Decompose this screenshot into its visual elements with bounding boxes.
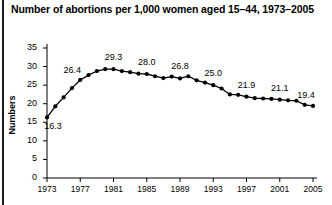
data-point-marker xyxy=(95,69,99,73)
y-axis-tick-label: 20 xyxy=(19,99,37,108)
data-point-marker xyxy=(269,97,273,101)
data-point-marker xyxy=(128,70,132,74)
data-point-marker xyxy=(244,95,248,99)
y-axis-title: Numbers xyxy=(7,85,17,145)
data-series-markers xyxy=(45,67,315,119)
data-point-marker xyxy=(253,96,257,100)
data-point-marker xyxy=(103,67,107,71)
plot-area: Numbers 05101520253035 19731977198119851… xyxy=(0,22,332,205)
data-point-marker xyxy=(195,78,199,82)
x-axis-tick-label: 1985 xyxy=(130,185,164,194)
x-axis-tick-label: 1977 xyxy=(63,185,97,194)
data-point-label: 29.3 xyxy=(99,53,129,62)
data-point-marker xyxy=(219,86,223,90)
x-axis-tick-label: 1989 xyxy=(163,185,197,194)
x-axis-tick-label: 1997 xyxy=(230,185,264,194)
data-point-marker xyxy=(311,104,315,108)
data-point-marker xyxy=(111,67,115,71)
x-axis-tick-label: 2001 xyxy=(263,185,297,194)
data-point-marker xyxy=(278,98,282,102)
data-point-label: 25.0 xyxy=(198,69,228,78)
data-point-marker xyxy=(161,76,165,80)
data-point-marker xyxy=(153,74,157,78)
data-point-marker xyxy=(178,76,182,80)
y-axis-tick-label: 30 xyxy=(19,62,37,71)
data-point-marker xyxy=(236,93,240,97)
y-axis-tick-label: 25 xyxy=(19,80,37,89)
data-point-marker xyxy=(228,92,232,96)
data-point-label: 16.3 xyxy=(38,122,68,131)
data-point-label: 28.0 xyxy=(132,58,162,67)
data-point-marker xyxy=(303,103,307,107)
x-axis-ticks xyxy=(47,178,313,182)
line-chart-canvas xyxy=(0,22,332,205)
data-point-marker xyxy=(261,96,265,100)
data-point-marker xyxy=(136,72,140,76)
data-point-marker xyxy=(45,115,49,119)
y-axis-tick-label: 35 xyxy=(19,43,37,52)
data-point-marker xyxy=(211,83,215,87)
data-point-marker xyxy=(145,72,149,76)
data-point-marker xyxy=(286,98,290,102)
x-axis-tick-label: 2005 xyxy=(296,185,330,194)
data-point-label: 21.9 xyxy=(232,81,262,90)
data-point-label: 26.8 xyxy=(165,62,195,71)
data-point-label: 19.4 xyxy=(291,91,321,100)
y-axis-tick-label: 15 xyxy=(19,117,37,126)
y-axis-ticks xyxy=(43,48,47,178)
x-axis-tick-label: 1973 xyxy=(30,185,64,194)
data-point-marker xyxy=(120,69,124,73)
x-axis-tick-label: 1981 xyxy=(97,185,131,194)
x-axis-tick-label: 1993 xyxy=(196,185,230,194)
data-point-marker xyxy=(78,78,82,82)
data-point-marker xyxy=(186,74,190,78)
data-point-marker xyxy=(203,80,207,84)
data-point-marker xyxy=(62,95,66,99)
data-point-label: 26.4 xyxy=(57,66,87,75)
data-point-marker xyxy=(53,104,57,108)
chart-title: Number of abortions per 1,000 women aged… xyxy=(11,3,329,15)
data-point-marker xyxy=(70,86,74,90)
chart-figure: Number of abortions per 1,000 women aged… xyxy=(0,0,332,205)
y-axis-tick-label: 5 xyxy=(19,154,37,163)
data-point-marker xyxy=(170,75,174,79)
y-axis-tick-label: 10 xyxy=(19,136,37,145)
y-axis-tick-label: 0 xyxy=(19,173,37,182)
